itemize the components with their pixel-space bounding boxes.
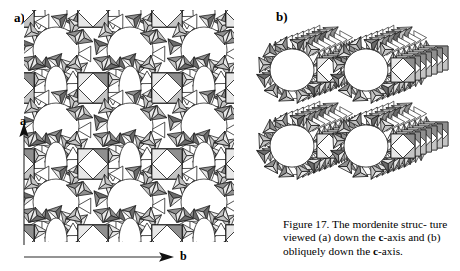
axis-a-arrow [19, 123, 28, 245]
axis-a-label: a [20, 114, 26, 129]
axis-b-arrow [24, 252, 174, 261]
caption-line-1: Figure 17. The mordenite struc- [283, 218, 427, 230]
axis-b-label: b [180, 249, 187, 264]
crystal-axes [0, 110, 200, 271]
panel-b-structure-diagram [248, 6, 460, 211]
figure-caption: Figure 17. The mordenite struc- ture vie… [283, 218, 457, 258]
caption-line-3-post: -axis. [378, 245, 403, 257]
caption-line-2-post: -axis [383, 231, 405, 243]
figure-container: a) b) a b Figure 17. The mordenite struc… [0, 0, 460, 271]
